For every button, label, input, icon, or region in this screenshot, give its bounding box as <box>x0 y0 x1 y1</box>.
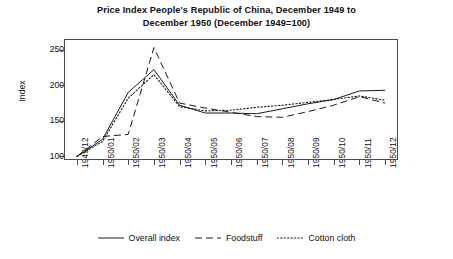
chart-legend: Overall indexFoodstuffCotton cloth <box>0 233 453 243</box>
x-tick-mark <box>154 160 155 165</box>
solid-line-icon <box>98 234 124 242</box>
plot-lines <box>64 39 398 160</box>
x-tick-mark <box>282 160 283 165</box>
x-tick-mark <box>257 160 258 165</box>
series-line-overall-index <box>77 70 385 157</box>
legend-entry: Foodstuff <box>195 233 263 243</box>
x-tick-mark <box>385 160 386 165</box>
x-tick-mark <box>359 160 360 165</box>
dotted-line-icon <box>277 234 303 242</box>
y-axis-label: Index <box>17 61 27 121</box>
legend-entry: Overall index <box>98 233 180 243</box>
chart-figure: Price Index People's Republic of China, … <box>0 0 453 259</box>
series-line-cotton-cloth <box>77 75 385 157</box>
x-tick-mark <box>308 160 309 165</box>
x-tick-mark <box>103 160 104 165</box>
legend-label: Cotton cloth <box>308 233 355 243</box>
x-tick-mark <box>180 160 181 165</box>
legend-label: Overall index <box>129 233 180 243</box>
dashed-line-icon <box>195 234 221 242</box>
legend-entry: Cotton cloth <box>277 233 355 243</box>
x-tick-mark <box>128 160 129 165</box>
x-tick-mark <box>231 160 232 165</box>
chart-title: Price Index People's Republic of China, … <box>0 4 453 29</box>
legend-label: Foodstuff <box>226 233 263 243</box>
chart-title-line-1: Price Index People's Republic of China, … <box>0 4 453 17</box>
chart-title-line-2: December 1950 (December 1949=100) <box>0 17 453 30</box>
x-tick-mark <box>205 160 206 165</box>
x-tick-mark <box>334 160 335 165</box>
x-tick-mark <box>77 160 78 165</box>
